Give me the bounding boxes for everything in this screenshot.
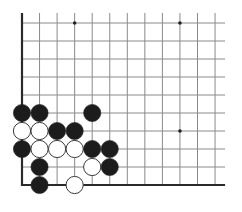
black-stone xyxy=(13,140,30,157)
black-stone xyxy=(49,122,66,139)
star-point xyxy=(178,21,182,25)
white-stone xyxy=(84,158,101,175)
black-stone xyxy=(101,158,118,175)
white-stone xyxy=(66,176,83,193)
black-stone xyxy=(101,140,118,157)
black-stone xyxy=(84,140,101,157)
black-stone xyxy=(31,104,48,121)
star-point xyxy=(178,129,182,133)
star-point xyxy=(73,21,77,25)
black-stone xyxy=(31,176,48,193)
go-board-diagram xyxy=(0,0,242,212)
white-stone xyxy=(31,140,48,157)
black-stone xyxy=(13,104,30,121)
white-stone xyxy=(31,122,48,139)
white-stone xyxy=(49,140,66,157)
black-stone xyxy=(66,122,83,139)
white-stone xyxy=(13,122,30,139)
black-stone xyxy=(84,104,101,121)
black-stone xyxy=(31,158,48,175)
stones xyxy=(13,104,118,193)
white-stone xyxy=(66,140,83,157)
grid-lines xyxy=(22,13,225,185)
go-board-svg xyxy=(0,0,242,212)
board-edges xyxy=(21,13,225,186)
